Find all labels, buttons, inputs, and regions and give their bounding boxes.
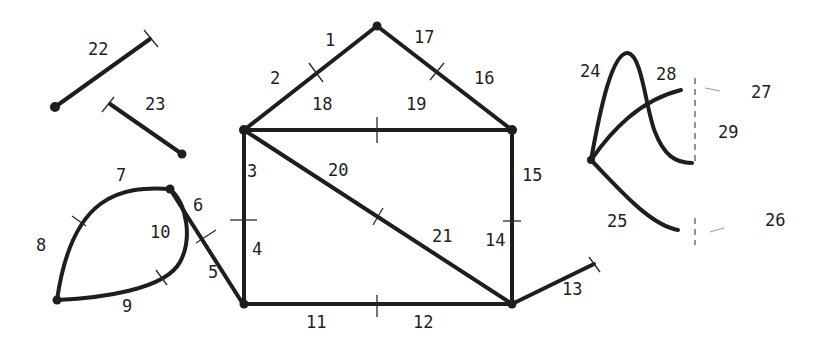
node: [507, 125, 517, 135]
label-15: 15: [522, 165, 542, 185]
edge-25: [591, 160, 678, 230]
node: [587, 156, 595, 164]
label-20: 20: [328, 160, 348, 180]
label-5: 5: [208, 262, 218, 282]
label-7: 7: [116, 165, 126, 185]
faint-stroke: [710, 228, 724, 232]
node: [508, 300, 517, 309]
label-27: 27: [751, 82, 771, 102]
label-21: 21: [432, 226, 452, 246]
faint-stroke: [705, 88, 720, 91]
label-23: 23: [145, 94, 165, 114]
graph-diagram: 1 2 3 4 5 6 7 8 9 10 11 12 13 14 15 16 1…: [0, 0, 822, 349]
label-10: 10: [150, 222, 170, 242]
label-19: 19: [406, 94, 426, 114]
label-3: 3: [247, 161, 257, 181]
main-graph: [230, 22, 600, 318]
label-16: 16: [474, 68, 494, 88]
node: [50, 102, 60, 112]
label-9: 9: [122, 296, 132, 316]
node: [240, 300, 249, 309]
label-17: 17: [414, 27, 434, 47]
edge-5-6: [170, 189, 243, 304]
label-24: 24: [580, 61, 600, 81]
node: [178, 150, 187, 159]
label-13: 13: [562, 279, 582, 299]
label-29: 29: [718, 122, 738, 142]
edge-9-10: [57, 189, 187, 300]
label-8: 8: [36, 235, 46, 255]
label-26: 26: [765, 210, 785, 230]
label-4: 4: [252, 239, 262, 259]
node: [53, 296, 62, 305]
label-2: 2: [270, 68, 280, 88]
node: [373, 22, 382, 31]
node: [239, 125, 249, 135]
label-6: 6: [193, 195, 203, 215]
edge-1-2: [244, 26, 377, 130]
leaf-loop: [53, 185, 187, 305]
label-12: 12: [413, 312, 433, 332]
label-22: 22: [88, 39, 108, 59]
label-28: 28: [656, 64, 676, 84]
label-14: 14: [485, 230, 505, 250]
label-25: 25: [607, 211, 627, 231]
label-1: 1: [325, 30, 335, 50]
label-18: 18: [312, 94, 332, 114]
label-11: 11: [306, 312, 326, 332]
